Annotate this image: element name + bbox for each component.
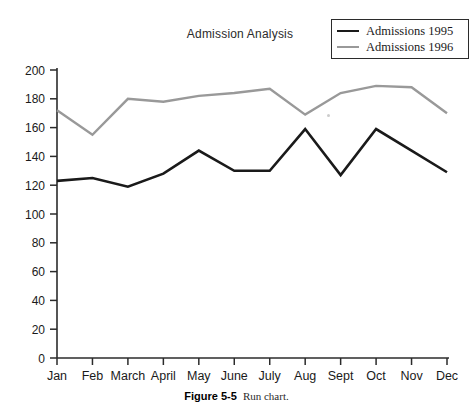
y-tick-label: 160 (25, 121, 45, 135)
chart-plot-area: 020406080100120140160180200 JanFebMarchA… (0, 0, 473, 390)
y-tick-label: 100 (25, 208, 45, 222)
y-tick-label: 60 (32, 265, 46, 279)
x-tick-label: July (259, 369, 282, 383)
y-tick-label: 0 (38, 352, 45, 366)
x-tick-label: Jan (47, 369, 67, 383)
y-axis: 020406080100120140160180200 (25, 64, 57, 366)
x-tick-label: Sept (328, 369, 354, 383)
x-tick-label: Oct (366, 369, 386, 383)
y-tick-label: 20 (32, 323, 46, 337)
data-series-group (57, 86, 447, 187)
figure-caption: Figure 5-5Run chart. (0, 390, 473, 402)
figure-caption-label: Figure 5-5 (184, 390, 237, 402)
x-tick-label: April (151, 369, 176, 383)
y-tick-label: 80 (32, 236, 46, 250)
series-line-admissions-1996 (57, 86, 447, 135)
x-tick-label: Feb (82, 369, 104, 383)
series-line-admissions-1995 (57, 129, 447, 187)
y-tick-label: 200 (25, 64, 45, 78)
y-tick-label: 120 (25, 179, 45, 193)
x-tick-label: Aug (294, 369, 316, 383)
figure-caption-text: Run chart. (243, 390, 289, 402)
y-tick-label: 140 (25, 150, 45, 164)
x-tick-label: Nov (400, 369, 423, 383)
y-tick-label: 40 (32, 294, 46, 308)
x-axis: JanFebMarchAprilMayJuneJulyAugSeptOctNov… (47, 358, 458, 383)
figure-root: Admission Analysis Admissions 1995 Admis… (0, 0, 473, 420)
x-tick-label: Dec (436, 369, 458, 383)
x-tick-label: May (187, 369, 211, 383)
x-tick-label: March (111, 369, 146, 383)
x-tick-label: June (221, 369, 248, 383)
y-tick-label: 180 (25, 92, 45, 106)
